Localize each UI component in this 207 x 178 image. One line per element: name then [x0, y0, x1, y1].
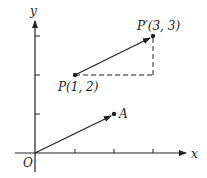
point-P — [73, 73, 77, 77]
coordinate-diagram: x y O A P(1, 2) P′(3, 3) — [0, 0, 207, 178]
x-axis-label: x — [191, 147, 198, 161]
vector-OA: A — [35, 107, 128, 153]
point-A-label: A — [118, 107, 128, 121]
point-P-prime — [151, 34, 155, 38]
y-axis: y — [29, 4, 40, 172]
point-A — [112, 112, 116, 116]
point-P-prime-label: P′(3, 3) — [136, 19, 180, 33]
origin-label: O — [23, 156, 33, 170]
y-axis-label: y — [29, 4, 37, 18]
point-P-label: P(1, 2) — [57, 80, 99, 94]
vector-PP-prime: P(1, 2) P′(3, 3) — [57, 19, 180, 94]
